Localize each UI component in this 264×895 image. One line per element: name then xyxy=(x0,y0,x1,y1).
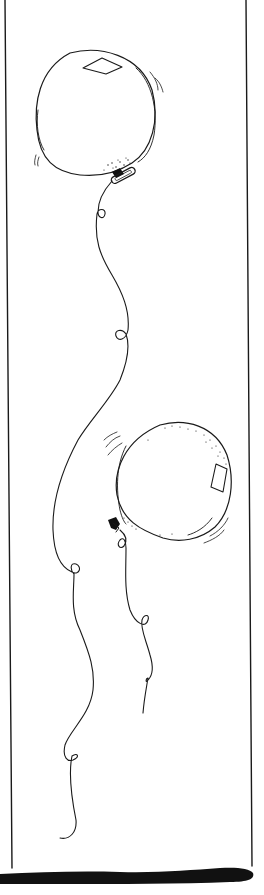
balloon-illustration: Hand-drawn line illustration of two ball… xyxy=(0,0,264,895)
balloon-bottom-highlight xyxy=(211,464,227,492)
balloon-top xyxy=(35,50,163,184)
frame-left-line xyxy=(5,0,12,868)
balloon-top-clip xyxy=(110,166,136,184)
illustration-svg xyxy=(0,0,264,895)
frame-base-bar xyxy=(0,868,253,884)
string-top xyxy=(53,181,128,838)
frame-right-line xyxy=(246,0,252,866)
balloon-top-highlight xyxy=(83,58,122,74)
string-bottom xyxy=(118,530,152,713)
balloon-bottom xyxy=(104,423,231,543)
balloon-top-stipple xyxy=(103,157,130,170)
